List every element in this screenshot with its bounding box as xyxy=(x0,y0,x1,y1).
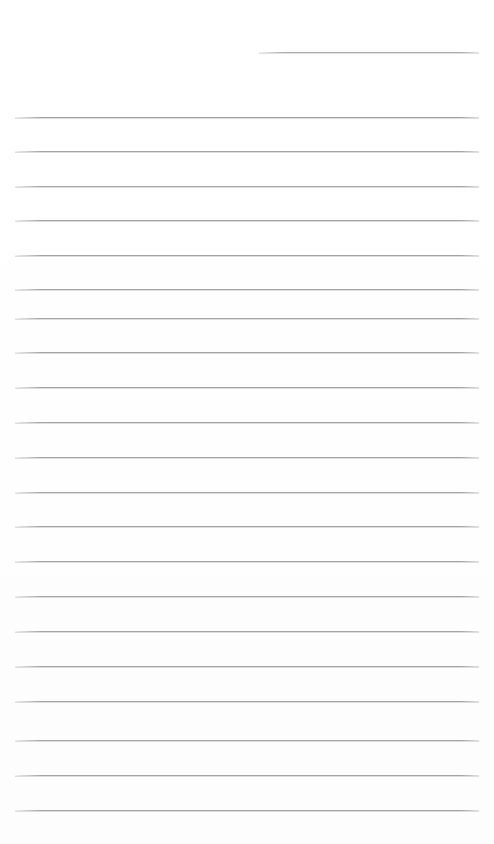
rule-20 xyxy=(15,775,479,776)
rule-08 xyxy=(15,352,479,353)
rule-03 xyxy=(15,186,479,187)
rule-partial-top xyxy=(259,52,479,53)
rule-09 xyxy=(15,387,479,388)
document-page xyxy=(0,0,494,844)
rule-15 xyxy=(15,596,479,597)
rule-19 xyxy=(15,740,479,741)
rule-16 xyxy=(15,631,479,632)
rule-11 xyxy=(15,457,479,458)
rule-02 xyxy=(15,151,479,152)
rule-17 xyxy=(15,666,479,667)
writing-area[interactable] xyxy=(0,0,494,844)
rule-04 xyxy=(15,220,479,221)
rule-12 xyxy=(15,492,479,493)
rule-10 xyxy=(15,422,479,423)
rule-05 xyxy=(15,255,479,256)
rule-13 xyxy=(15,526,479,527)
rule-06 xyxy=(15,289,479,290)
rule-01 xyxy=(15,117,479,118)
rule-18 xyxy=(15,701,479,702)
rule-21 xyxy=(15,810,479,811)
rule-14 xyxy=(15,561,479,562)
rule-07 xyxy=(15,318,479,319)
